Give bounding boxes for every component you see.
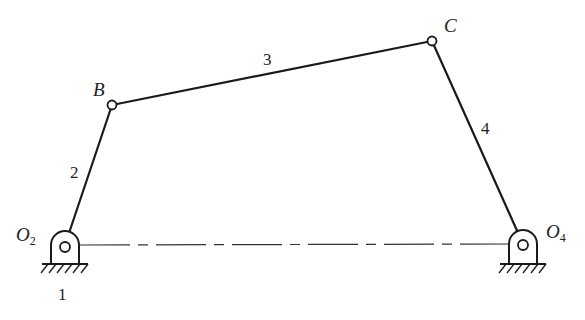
label-b: B	[93, 79, 105, 100]
label-link-4: 4	[481, 119, 490, 138]
label-link-3: 3	[263, 50, 272, 69]
label-link-2: 2	[70, 163, 79, 182]
joint-b	[108, 101, 117, 110]
link-4-rocker	[432, 41, 523, 244]
label-o4: O4	[546, 221, 566, 245]
joint-o2	[60, 242, 70, 252]
label-ground-1: 1	[58, 285, 67, 304]
four-bar-linkage-diagram: B C O2 O4 2 3 4 1	[0, 0, 585, 320]
link-3-coupler	[112, 41, 432, 105]
label-c: C	[444, 15, 457, 36]
ground-centerline	[80, 244, 512, 245]
joint-c	[428, 37, 437, 46]
joint-o4	[518, 240, 528, 250]
support-o4	[499, 230, 546, 273]
label-o2: O2	[16, 224, 36, 248]
